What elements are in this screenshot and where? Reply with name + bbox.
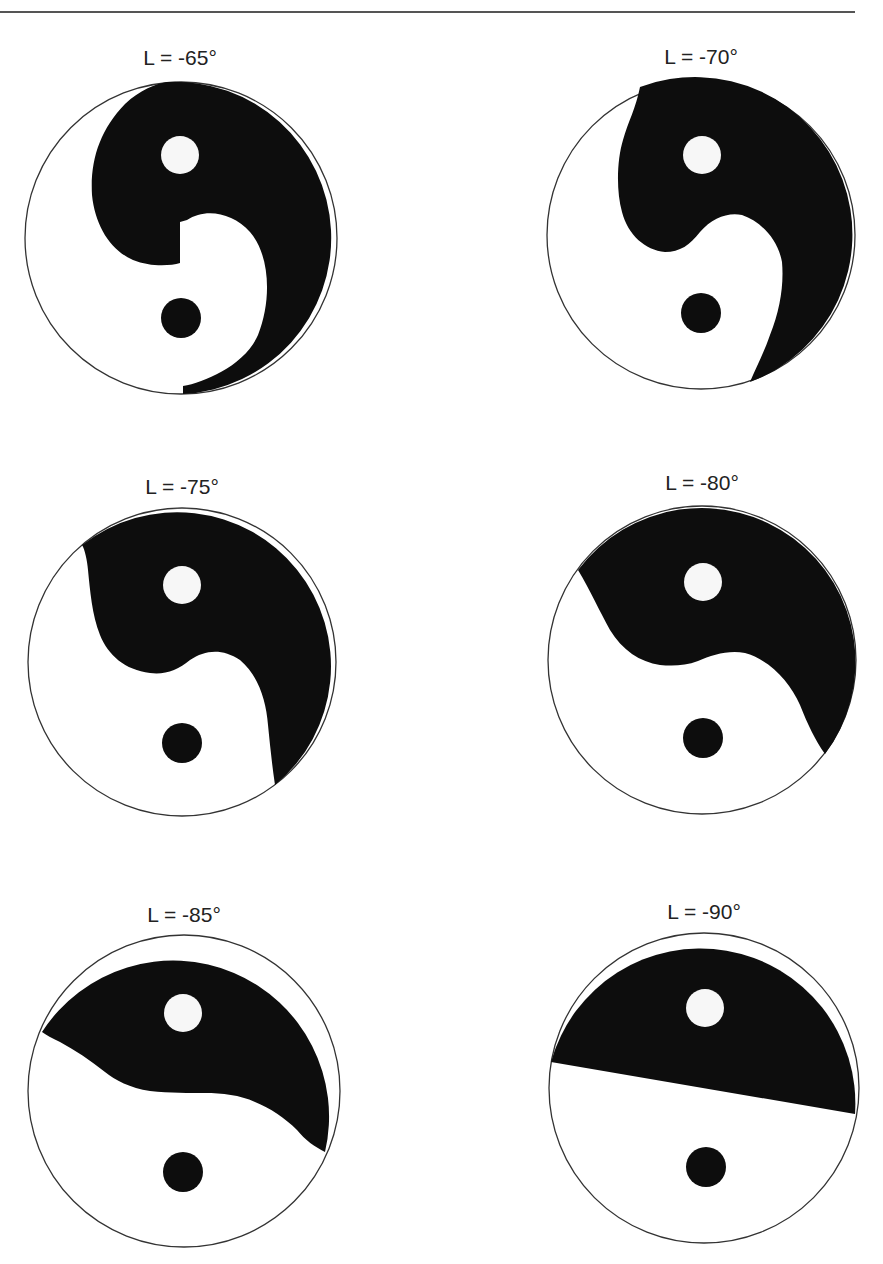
light-dot: [161, 136, 199, 174]
dark-dot: [161, 298, 201, 338]
dark-dot: [681, 293, 721, 333]
panel-l-minus-75: L = -75°: [28, 475, 336, 816]
dark-dot: [163, 1152, 203, 1192]
dark-dot: [683, 718, 723, 758]
light-dot: [163, 566, 201, 604]
yin-yang-panels-figure: L = -65° L = -70° L = -75° L = -80° L = …: [0, 0, 883, 1264]
panel-l-minus-90: L = -90°: [549, 900, 859, 1243]
panel-label: L = -65°: [143, 46, 217, 69]
light-dot: [164, 994, 202, 1032]
panel-l-minus-65: L = -65°: [25, 46, 337, 394]
panel-label: L = -90°: [667, 900, 741, 923]
light-dot: [686, 989, 724, 1027]
panel-label: L = -85°: [147, 903, 221, 926]
panel-label: L = -75°: [145, 475, 219, 498]
panel-l-minus-85: L = -85°: [28, 903, 340, 1247]
light-dot: [684, 563, 722, 601]
panel-label: L = -80°: [665, 471, 739, 494]
panel-label: L = -70°: [664, 45, 738, 68]
panel-l-minus-80: L = -80°: [548, 471, 856, 814]
dark-dot: [686, 1147, 726, 1187]
dark-dot: [162, 723, 202, 763]
panel-l-minus-70: L = -70°: [547, 45, 855, 389]
light-dot: [683, 136, 721, 174]
